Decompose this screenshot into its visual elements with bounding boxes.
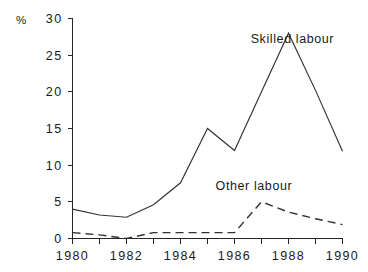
y-tick-label: 5 xyxy=(54,195,62,209)
y-axis-unit-label: % xyxy=(16,14,26,26)
x-tick-label: 1980 xyxy=(56,249,89,263)
x-tick-label: 1984 xyxy=(164,249,197,263)
series-label-other-labour: Other labour xyxy=(216,179,293,193)
y-tick-label: 25 xyxy=(46,49,63,63)
line-chart: % 051015202530 198019821984198619881990 … xyxy=(0,0,368,272)
chart-canvas: % 051015202530 198019821984198619881990 … xyxy=(0,0,368,272)
y-tick-label: 0 xyxy=(54,232,62,246)
x-tick-label: 1982 xyxy=(110,249,143,263)
y-tick-label: 30 xyxy=(46,12,63,26)
series-label-skilled-labour: Skilled labour xyxy=(251,32,334,46)
x-tick-label: 1986 xyxy=(218,249,251,263)
y-tick-label: 15 xyxy=(46,122,63,136)
y-tick-label: 20 xyxy=(46,85,63,99)
x-tick-label: 1990 xyxy=(326,249,359,263)
x-tick-label: 1988 xyxy=(272,249,305,263)
y-tick-label: 10 xyxy=(46,159,63,173)
